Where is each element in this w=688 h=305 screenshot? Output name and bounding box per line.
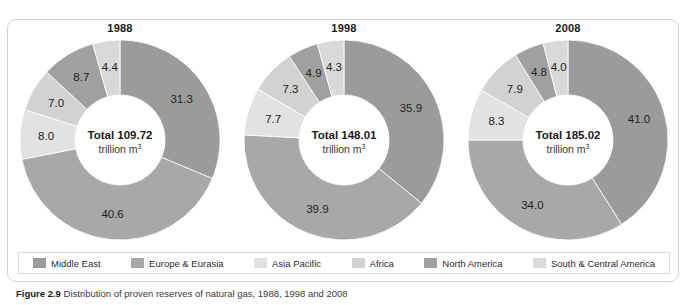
center-unit-label: trillion m3 bbox=[323, 143, 366, 155]
caption-text: Distribution of proven reserves of natur… bbox=[64, 288, 348, 299]
legend-item: Africa bbox=[352, 258, 394, 269]
slice-value-label: 31.3 bbox=[170, 93, 192, 105]
slice-value-label: 40.6 bbox=[101, 208, 123, 220]
slice-value-label: 7.7 bbox=[265, 113, 281, 125]
pie-slice bbox=[344, 40, 444, 203]
clipped-previous-figure-text bbox=[0, 0, 688, 13]
slice-value-label: 4.4 bbox=[102, 61, 119, 73]
legend-item: Middle East bbox=[33, 258, 101, 269]
chart-1998: 199835.939.97.77.34.94.3Total 148.01tril… bbox=[232, 20, 456, 248]
center-total-label: Total 148.01 bbox=[312, 129, 378, 141]
slice-value-label: 4.9 bbox=[306, 67, 322, 79]
legend-color-swatch bbox=[533, 258, 546, 268]
donut-chart: 31.340.68.07.08.74.4Total 109.72trillion… bbox=[17, 37, 223, 243]
legend-label: South & Central America bbox=[551, 258, 655, 269]
slice-value-label: 8.3 bbox=[489, 115, 505, 127]
figure-frame: 198831.340.68.07.08.74.4Total 109.72tril… bbox=[7, 19, 679, 282]
slice-value-label: 41.0 bbox=[628, 113, 650, 125]
charts-row: 198831.340.68.07.08.74.4Total 109.72tril… bbox=[8, 20, 679, 248]
legend-label: North America bbox=[442, 258, 502, 269]
center-unit-label: trillion m3 bbox=[547, 143, 590, 155]
legend-label: Africa bbox=[370, 258, 394, 269]
legend-label: Asia Pacific bbox=[272, 258, 321, 269]
chart-year-label: 2008 bbox=[456, 22, 679, 34]
slice-value-label: 35.9 bbox=[400, 102, 422, 114]
legend-item: North America bbox=[424, 258, 502, 269]
legend-color-swatch bbox=[424, 258, 437, 268]
chart-2008: 200841.034.08.37.94.84.0Total 185.02tril… bbox=[456, 20, 679, 248]
slice-value-label: 7.0 bbox=[48, 97, 64, 109]
chart-year-label: 1998 bbox=[232, 22, 456, 34]
center-total-label: Total 185.02 bbox=[536, 129, 601, 141]
legend-color-swatch bbox=[352, 258, 365, 268]
legend-item: Asia Pacific bbox=[254, 258, 321, 269]
donut-chart: 41.034.08.37.94.84.0Total 185.02trillion… bbox=[465, 37, 671, 243]
slice-value-label: 8.0 bbox=[38, 130, 54, 142]
center-unit-label: trillion m3 bbox=[99, 143, 142, 155]
legend-item: Europe & Eurasia bbox=[131, 258, 223, 269]
pie-slice bbox=[468, 140, 622, 240]
legend-color-swatch bbox=[131, 258, 144, 268]
slice-value-label: 8.7 bbox=[73, 71, 89, 83]
slice-value-label: 7.9 bbox=[507, 83, 523, 95]
pie-slice bbox=[120, 40, 220, 179]
chart-year-label: 1988 bbox=[8, 22, 232, 34]
slice-value-label: 34.0 bbox=[521, 199, 543, 211]
legend-color-swatch bbox=[33, 258, 46, 268]
slice-value-label: 39.9 bbox=[306, 203, 328, 215]
slice-value-label: 4.8 bbox=[531, 66, 547, 78]
caption-label: Figure 2.9 bbox=[16, 288, 61, 299]
legend-color-swatch bbox=[254, 258, 267, 268]
slice-value-label: 4.0 bbox=[551, 61, 567, 73]
legend-item: South & Central America bbox=[533, 258, 655, 269]
chart-1988: 198831.340.68.07.08.74.4Total 109.72tril… bbox=[8, 20, 232, 248]
donut-chart: 35.939.97.77.34.94.3Total 148.01trillion… bbox=[241, 37, 447, 243]
figure-caption: Figure 2.9 Distribution of proven reserv… bbox=[16, 288, 676, 299]
legend-label: Europe & Eurasia bbox=[149, 258, 223, 269]
center-total-label: Total 109.72 bbox=[88, 129, 153, 141]
slice-value-label: 7.3 bbox=[283, 83, 299, 95]
chart-legend: Middle EastEurope & EurasiaAsia PacificA… bbox=[18, 252, 670, 274]
slice-value-label: 4.3 bbox=[326, 61, 342, 73]
legend-label: Middle East bbox=[51, 258, 101, 269]
